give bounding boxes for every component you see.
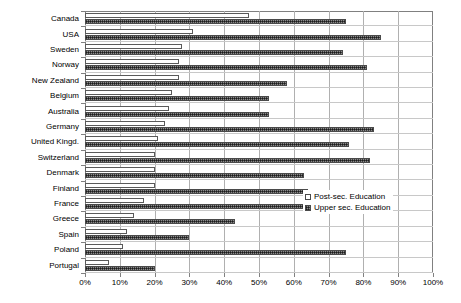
x-axis-tick [259,273,260,277]
bar-upper-sec [85,65,367,70]
y-axis-tick [81,57,85,58]
y-axis-tick [81,103,85,104]
bar-upper-sec [85,158,370,163]
bar-chart: CanadaUSASwedenNorwayNew ZealandBelgiumA… [0,0,461,303]
bar-upper-sec [85,173,304,178]
bar-row [85,134,433,149]
y-axis-tick [81,134,85,135]
bar-post-sec [85,152,155,157]
x-axis-label: 0% [79,278,91,287]
bar-upper-sec [85,96,269,101]
y-axis-label: Australia [0,103,83,118]
bar-post-sec [85,13,249,18]
x-axis-tick [398,273,399,277]
bar-upper-sec [85,250,346,255]
x-axis-tick [155,273,156,277]
y-axis-label: Greece [0,211,83,226]
x-axis-label: 90% [390,278,406,287]
x-axis-tick [329,273,330,277]
bar-post-sec [85,244,123,249]
x-axis-tick [85,273,86,277]
y-axis-label: Poland [0,242,83,257]
x-axis-label: 10% [112,278,128,287]
x-axis-tick [363,273,364,277]
bar-post-sec [85,167,155,172]
bar-post-sec [85,213,134,218]
bar-upper-sec [85,112,269,117]
x-axis-tick [433,273,434,277]
bar-post-sec [85,90,172,95]
x-axis-label: 70% [321,278,337,287]
x-axis-label: 20% [147,278,163,287]
bar-post-sec [85,121,165,126]
legend-label: Post-sec. Education [314,191,385,202]
bar-upper-sec [85,204,322,209]
bar-post-sec [85,75,179,80]
bar-row [85,242,433,257]
x-axis-label: 80% [355,278,371,287]
y-axis-tick [81,273,85,274]
y-axis-tick [81,227,85,228]
bar-upper-sec [85,81,287,86]
bar-row [85,26,433,41]
bar-upper-sec [85,235,189,240]
y-axis-tick [81,258,85,259]
x-axis: 0%10%20%30%40%50%60%70%80%90%100% [85,273,433,299]
bar-post-sec [85,229,127,234]
bar-row [85,88,433,103]
y-axis-label: Norway [0,57,83,72]
bar-upper-sec [85,189,308,194]
x-axis-tick [189,273,190,277]
y-axis-label: Switzerland [0,150,83,165]
y-axis-label: Finland [0,180,83,195]
y-axis-tick [81,26,85,27]
x-axis-label: 100% [423,278,443,287]
bar-upper-sec [85,266,155,271]
bar-row [85,103,433,118]
bar-post-sec [85,260,109,265]
bar-upper-sec [85,19,346,24]
bar-post-sec [85,136,158,141]
bar-upper-sec [85,219,235,224]
chart-legend: Post-sec. EducationUpper sec. Education [303,190,393,214]
plot-area [85,11,433,273]
y-axis-label: USA [0,26,83,41]
bar-row [85,258,433,273]
bar-post-sec [85,44,182,49]
y-axis-tick [81,211,85,212]
bar-upper-sec [85,35,381,40]
y-axis-tick [81,242,85,243]
x-axis-label: 30% [181,278,197,287]
bar-row [85,11,433,26]
bar-upper-sec [85,127,374,132]
y-axis-tick [81,88,85,89]
bar-row [85,119,433,134]
y-axis-tick [81,150,85,151]
y-axis-tick [81,196,85,197]
bar-post-sec [85,183,155,188]
bar-post-sec [85,198,144,203]
y-axis-tick [81,11,85,12]
x-axis-tick [120,273,121,277]
y-axis-label: Germany [0,119,83,134]
y-axis-label: France [0,196,83,211]
y-axis-label: Sweden [0,42,83,57]
x-axis-tick [294,273,295,277]
legend-label: Upper sec. Education [314,202,391,213]
y-axis-label: Spain [0,227,83,242]
x-axis-label: 60% [286,278,302,287]
bar-row [85,42,433,57]
legend-item: Post-sec. Education [305,191,391,202]
bar-post-sec [85,59,179,64]
x-axis-label: 40% [216,278,232,287]
bar-row [85,165,433,180]
bar-upper-sec [85,142,349,147]
bar-post-sec [85,29,193,34]
y-axis-category-labels: CanadaUSASwedenNorwayNew ZealandBelgiumA… [0,11,83,273]
bar-upper-sec [85,50,343,55]
y-axis-tick [81,73,85,74]
y-axis-tick [81,42,85,43]
legend-swatch-icon [305,205,311,211]
bar-row [85,73,433,88]
bar-row [85,57,433,72]
